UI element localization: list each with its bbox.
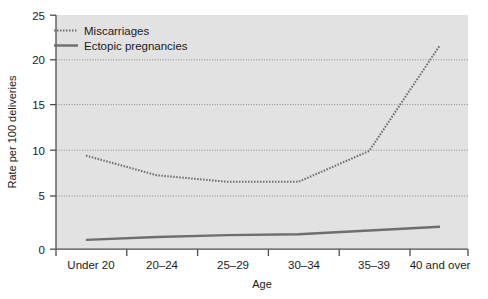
x-axis-title: Age [252, 278, 272, 290]
x-tick-label-30-34: 30–34 [288, 259, 321, 271]
legend-label-miscarriages: Miscarriages [84, 25, 149, 37]
x-axis-ticks [56, 249, 468, 256]
x-tick-label-25-29: 25–29 [217, 259, 249, 271]
y-axis-ticks [50, 15, 56, 249]
y-axis-title: Rate per 100 deliveries [6, 75, 18, 189]
line-chart-figure: 25 20 15 10 5 0 Rate per 100 deliveries … [0, 0, 488, 299]
x-tick-label-35-39: 35–39 [358, 259, 390, 271]
y-tick-label-25: 25 [32, 10, 45, 22]
x-tick-label-20-24: 20–24 [146, 259, 179, 271]
x-tick-label-40-over: 40 and over [410, 259, 471, 271]
y-tick-label-20: 20 [32, 54, 45, 66]
y-tick-label-5: 5 [39, 190, 45, 202]
y-tick-label-0: 0 [39, 244, 45, 256]
legend-label-ectopic-pregnancies: Ectopic pregnancies [84, 40, 188, 52]
x-tick-label-under-20: Under 20 [67, 259, 114, 271]
y-tick-label-10: 10 [32, 145, 45, 157]
y-tick-label-15: 15 [32, 99, 45, 111]
